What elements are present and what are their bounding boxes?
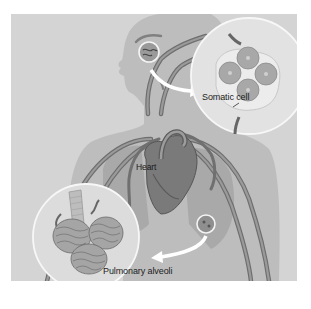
- heart-label: Heart: [136, 162, 156, 172]
- diagram-panel: Somatic cell Heart Pulmonary alveoli: [11, 14, 297, 281]
- lung-tissue-callout: [197, 215, 215, 233]
- head-tissue-callout: [139, 42, 159, 62]
- somatic-cell-label: Somatic cell: [202, 92, 249, 102]
- circulatory-illustration: [11, 14, 297, 281]
- somatic-cell-inset: [191, 18, 297, 134]
- pulmonary-alveoli-label: Pulmonary alveoli: [103, 266, 172, 276]
